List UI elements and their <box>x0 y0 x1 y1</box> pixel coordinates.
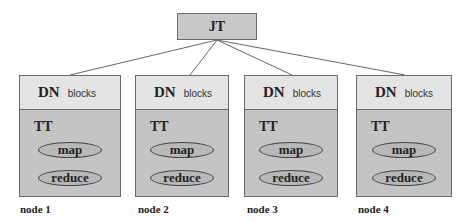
map-task-oval: map <box>372 142 436 158</box>
reduce-label: reduce <box>385 170 422 186</box>
data-node-label: DN <box>154 84 176 101</box>
node-4-caption: node 4 <box>358 203 389 215</box>
data-node-label: DN <box>263 84 285 101</box>
map-label: map <box>58 142 83 158</box>
reduce-task-oval: reduce <box>259 170 323 186</box>
reduce-label: reduce <box>51 170 88 186</box>
task-tracker-label: TT <box>150 119 169 135</box>
map-task-oval: map <box>38 142 102 158</box>
blocks-label: blocks <box>68 88 96 99</box>
task-tracker-label: TT <box>371 119 390 135</box>
reduce-task-oval: reduce <box>372 170 436 186</box>
map-task-oval: map <box>259 142 323 158</box>
data-node-section: DN blocks <box>20 76 120 110</box>
task-tracker-label: TT <box>34 119 53 135</box>
map-label: map <box>170 142 195 158</box>
map-task-oval: map <box>150 142 214 158</box>
job-tracker-box: JT <box>177 13 257 40</box>
blocks-label: blocks <box>405 88 433 99</box>
node-1-caption: node 1 <box>20 203 51 215</box>
reduce-task-oval: reduce <box>150 170 214 186</box>
map-label: map <box>392 142 417 158</box>
connector-node-4 <box>217 40 405 75</box>
data-node-label: DN <box>375 84 397 101</box>
data-node-section: DN blocks <box>357 76 451 110</box>
reduce-label: reduce <box>163 170 200 186</box>
reduce-label: reduce <box>272 170 309 186</box>
node-2-caption: node 2 <box>138 203 169 215</box>
job-tracker-label: JT <box>209 19 225 35</box>
node-3-caption: node 3 <box>247 203 278 215</box>
data-node-label: DN <box>38 84 60 101</box>
reduce-task-oval: reduce <box>38 170 102 186</box>
node-4-box: DN blocks TT map reduce <box>356 75 452 197</box>
node-3-box: DN blocks TT map reduce <box>244 75 338 197</box>
node-1-box: DN blocks TT map reduce <box>19 75 121 197</box>
data-node-section: DN blocks <box>136 76 228 110</box>
blocks-label: blocks <box>184 88 212 99</box>
node-2-box: DN blocks TT map reduce <box>135 75 229 197</box>
map-label: map <box>279 142 304 158</box>
blocks-label: blocks <box>293 88 321 99</box>
connector-node-1 <box>70 40 217 75</box>
data-node-section: DN blocks <box>245 76 337 110</box>
task-tracker-label: TT <box>259 119 278 135</box>
connector-node-3 <box>217 40 292 75</box>
